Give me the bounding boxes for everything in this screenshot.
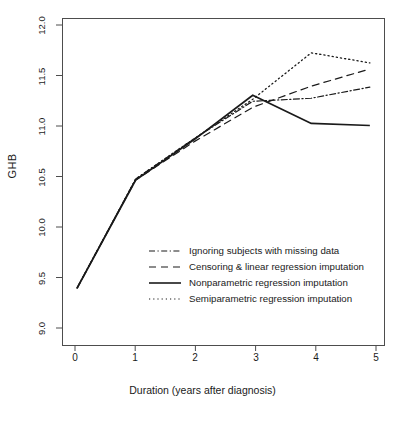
chart-legend: Ignoring subjects with missing data Cens… <box>148 243 383 307</box>
legend-key-dashed-icon <box>148 261 182 273</box>
legend-item-2: Nonparametric regression imputation <box>148 275 383 291</box>
chart-figure: GHB 9.0 9.5 10.0 10.5 11.0 11.5 12.0 0 1… <box>0 0 405 421</box>
legend-key-solid-icon <box>148 277 182 289</box>
legend-key-dashdot-icon <box>148 245 182 257</box>
legend-label-2: Nonparametric regression imputation <box>189 277 348 289</box>
legend-label-3: Semiparametric regression imputation <box>189 293 352 305</box>
legend-key-dotted-icon <box>148 293 182 305</box>
legend-item-3: Semiparametric regression imputation <box>148 291 383 307</box>
legend-item-1: Censoring & linear regression imputation <box>148 259 383 275</box>
plot-area <box>0 0 405 421</box>
x-axis-title: Duration (years after diagnosis) <box>0 384 405 396</box>
legend-item-0: Ignoring subjects with missing data <box>148 243 383 259</box>
legend-label-1: Censoring & linear regression imputation <box>189 261 364 273</box>
y-axis-ticks <box>56 25 62 328</box>
legend-label-0: Ignoring subjects with missing data <box>189 245 339 257</box>
